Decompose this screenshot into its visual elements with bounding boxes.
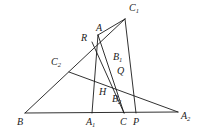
point-label-a: A [96, 23, 102, 33]
point-label-text: Q [117, 65, 124, 76]
point-label-r: R [81, 33, 87, 43]
point-label-subscript: 2 [118, 98, 121, 105]
point-label-text: R [81, 32, 87, 43]
point-label-subscript: 2 [58, 61, 61, 68]
point-label-c2: C2 [51, 57, 61, 67]
point-label-c: C [120, 117, 127, 127]
point-label-text: C [129, 2, 136, 13]
side-B-C1 [25, 19, 125, 113]
point-label-b: B [17, 117, 23, 127]
point-label-text: C [120, 116, 127, 127]
point-label-a2: A2 [181, 111, 190, 121]
diagram-lines-layer [0, 0, 202, 134]
point-label-b2: B2 [112, 94, 121, 104]
point-label-subscript: 1 [92, 121, 95, 128]
base-line-B-A2 [25, 112, 178, 113]
point-label-subscript: 2 [187, 115, 190, 122]
point-label-h: H [99, 87, 106, 97]
point-label-text: C [51, 56, 58, 67]
point-label-c1: C1 [129, 3, 139, 13]
point-label-text: P [133, 116, 139, 127]
point-label-q: Q [117, 66, 124, 76]
cevian-C2-A2 [69, 72, 178, 112]
point-label-subscript: 1 [119, 56, 122, 63]
point-label-b1: B1 [113, 52, 122, 62]
point-label-p: P [133, 117, 139, 127]
geometry-diagram: BA1CPA2C2C1ARB1QHB2 [0, 0, 202, 134]
point-label-text: A [96, 22, 102, 33]
point-label-subscript: 1 [136, 7, 139, 14]
segment-C1-P [125, 19, 136, 113]
point-label-text: H [99, 86, 106, 97]
point-label-text: B [17, 116, 23, 127]
point-label-a1: A1 [86, 117, 95, 127]
